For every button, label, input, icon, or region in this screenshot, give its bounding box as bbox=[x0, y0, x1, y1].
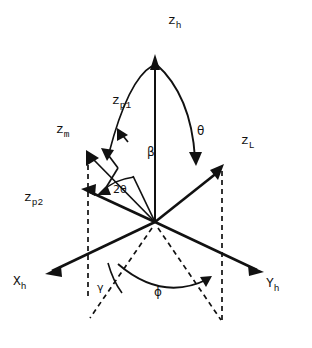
z-p1-inner-ray bbox=[133, 176, 155, 222]
label-z-L: zL bbox=[241, 133, 255, 150]
label-beta: β bbox=[147, 145, 155, 159]
label-X-h: Xh bbox=[13, 274, 27, 291]
origin-to-left-foot-line bbox=[90, 228, 152, 318]
label-two-theta: 2θ bbox=[113, 183, 127, 196]
label-theta: θ bbox=[197, 124, 204, 138]
label-Y-h: Yh bbox=[266, 276, 280, 293]
X-h-arrowhead bbox=[45, 266, 62, 277]
axes-group bbox=[52, 66, 257, 271]
theta-arc bbox=[156, 64, 195, 158]
phi-arc bbox=[118, 264, 208, 288]
z-L-axis-shaft bbox=[155, 172, 218, 222]
label-z-h: zh bbox=[168, 13, 182, 30]
label-gamma: γ bbox=[97, 281, 104, 294]
vector-diagram: zh zp1 zm zp2 zL Xh Yh θ β bbox=[0, 0, 312, 348]
two-theta-connector-tick bbox=[109, 156, 118, 168]
diagram-canvas: zh zp1 zm zp2 zL Xh Yh θ β bbox=[0, 0, 312, 348]
label-z-p2: zp2 bbox=[24, 190, 44, 207]
Y-h-arrowhead bbox=[248, 265, 264, 276]
origin-to-right-foot-line bbox=[158, 228, 221, 320]
theta-arc-arrowhead bbox=[189, 152, 202, 166]
label-z-m: zm bbox=[56, 122, 70, 139]
label-phi: ϕ bbox=[154, 285, 162, 299]
